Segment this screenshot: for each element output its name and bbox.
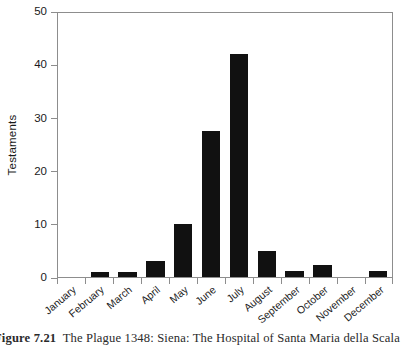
x-axis-tick-label: May [168, 284, 190, 305]
caption-text: The Plague 1348: Siena: The Hospital of … [63, 331, 400, 345]
bar-slot [169, 13, 197, 277]
bar-series [58, 13, 392, 277]
figure: Testaments 01020304050 JanuaryFebruaryMa… [0, 0, 405, 349]
y-axis: Testaments 01020304050 [0, 12, 57, 278]
y-tick-label: 50 [34, 6, 51, 18]
plot-area [57, 12, 393, 278]
bar-slot [253, 13, 281, 277]
bar [174, 224, 192, 277]
x-label-slot: June [197, 284, 225, 328]
bar [118, 272, 136, 277]
x-axis-tick-label: June [194, 284, 218, 307]
bar-slot [308, 13, 336, 277]
bar-slot [197, 13, 225, 277]
bar [313, 265, 331, 277]
bar [146, 261, 164, 277]
caption-figure-number: Figure 7.21 [0, 331, 56, 345]
bar-slot [336, 13, 364, 277]
x-axis-tick-label: April [139, 284, 162, 306]
x-label-slot: May [169, 284, 197, 328]
bar-slot [225, 13, 253, 277]
y-tick-label: 0 [41, 272, 51, 284]
bar-slot [114, 13, 142, 277]
bar [230, 54, 248, 277]
bar [258, 251, 276, 277]
bar [285, 271, 303, 277]
bar [91, 272, 109, 277]
bar-slot [364, 13, 392, 277]
y-tick-label: 40 [34, 59, 51, 71]
bar-slot [58, 13, 86, 277]
figure-caption: Figure 7.21 The Plague 1348: Siena: The … [0, 331, 405, 346]
bar-slot [86, 13, 114, 277]
bar-slot [141, 13, 169, 277]
y-axis-title: Testaments [6, 115, 18, 176]
bar [369, 271, 387, 277]
x-label-slot: April [141, 284, 169, 328]
x-label-slot: March [113, 284, 141, 328]
y-tick-label: 20 [34, 166, 51, 178]
x-axis-labels: JanuaryFebruaryMarchAprilMayJuneJulyAugu… [57, 284, 393, 328]
bar-slot [281, 13, 309, 277]
x-axis-tick-label: July [225, 284, 246, 304]
y-tick-label: 10 [34, 219, 51, 231]
x-label-slot: December [365, 284, 393, 328]
y-tick-label: 30 [34, 113, 51, 125]
bar [202, 131, 220, 277]
